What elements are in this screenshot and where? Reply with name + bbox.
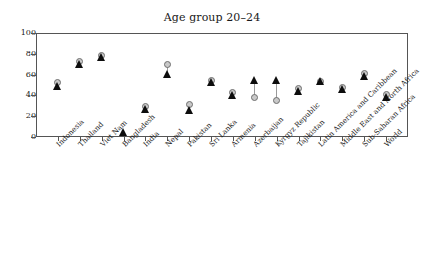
data-point-triangle [163, 70, 171, 78]
data-point-triangle [119, 128, 127, 136]
data-point-triangle [360, 72, 368, 80]
data-point-triangle [75, 60, 83, 68]
data-point-triangle [185, 106, 193, 114]
y-tick-mark [31, 137, 36, 138]
data-point-triangle [338, 85, 346, 93]
data-point-triangle [294, 87, 302, 95]
plot-area [36, 33, 408, 137]
data-point-triangle [53, 82, 61, 90]
chart-container: Age group 20–24 020406080100 IndonesiaTh… [0, 0, 424, 274]
y-tick-mark [31, 54, 36, 55]
data-point-triangle [141, 105, 149, 113]
data-point-triangle [316, 77, 324, 85]
y-tick-mark [31, 33, 36, 34]
data-point-triangle [382, 93, 390, 101]
data-point-triangle [97, 53, 105, 61]
data-point-triangle [228, 91, 236, 99]
y-tick-mark [31, 116, 36, 117]
data-point-triangle [272, 76, 280, 84]
chart-title: Age group 20–24 [0, 11, 424, 24]
y-tick-mark [31, 95, 36, 96]
data-point-triangle [250, 76, 258, 84]
y-tick-mark [31, 75, 36, 76]
data-point-triangle [207, 78, 215, 86]
data-point-circle [164, 61, 171, 68]
